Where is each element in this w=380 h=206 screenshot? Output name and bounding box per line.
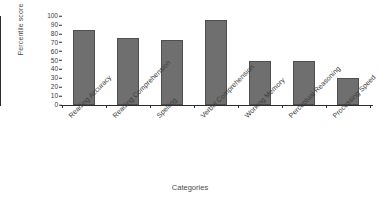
y-axis-tick: 50: [42, 57, 62, 64]
y-axis-tick-label: 60: [42, 48, 58, 55]
y-axis-tick: 60: [42, 48, 62, 55]
y-axis-tick-mark: [59, 96, 62, 97]
y-axis-tick-mark: [59, 69, 62, 70]
y-axis-tick-mark: [59, 60, 62, 61]
y-axis-tick-mark: [59, 24, 62, 25]
y-axis-tick: 80: [42, 31, 62, 38]
y-axis-tick-label: 20: [42, 84, 58, 91]
y-axis-tick: 0: [42, 102, 62, 109]
plot-area: 1009080706050403020100: [62, 16, 370, 105]
bar-chart: Percentile score 1009080706050403020100 …: [0, 0, 380, 206]
y-axis-tick-mark: [59, 16, 62, 17]
y-axis-tick-mark: [59, 33, 62, 34]
x-axis-title: Categories: [0, 183, 380, 192]
y-axis-tick: 20: [42, 84, 62, 91]
x-axis-tick-mark: [238, 105, 239, 108]
y-axis-tick-label: 100: [42, 13, 58, 20]
x-axis-tick-mark: [370, 105, 371, 108]
x-axis-tick-mark: [150, 105, 151, 108]
y-axis-tick-label: 70: [42, 39, 58, 46]
x-axis-tick-mark: [194, 105, 195, 108]
bar: [161, 40, 183, 105]
y-axis-tick: 30: [42, 75, 62, 82]
y-axis-tick-label: 90: [42, 22, 58, 29]
x-axis-tick-mark: [62, 105, 63, 108]
y-axis-tick: 10: [42, 93, 62, 100]
y-axis-tick: 70: [42, 39, 62, 46]
y-axis-title: Percentile score: [17, 0, 24, 70]
y-axis-tick: 90: [42, 22, 62, 29]
x-axis-tick-mark: [282, 105, 283, 108]
y-axis-tick-label: 50: [42, 57, 58, 64]
y-axis-tick-label: 0: [42, 102, 58, 109]
y-axis-tick: 40: [42, 66, 62, 73]
y-axis-tick-label: 80: [42, 31, 58, 38]
y-axis-tick-mark: [59, 42, 62, 43]
y-axis-tick: 100: [42, 13, 62, 20]
y-axis-tick-label: 10: [42, 93, 58, 100]
y-axis-tick-mark: [59, 87, 62, 88]
y-axis-tick-mark: [59, 78, 62, 79]
y-axis-tick-label: 40: [42, 66, 58, 73]
x-axis-tick-mark: [326, 105, 327, 108]
y-axis-tick-label: 30: [42, 75, 58, 82]
y-axis-line: [0, 16, 1, 106]
x-axis-tick-mark: [106, 105, 107, 108]
y-axis-tick-mark: [59, 51, 62, 52]
